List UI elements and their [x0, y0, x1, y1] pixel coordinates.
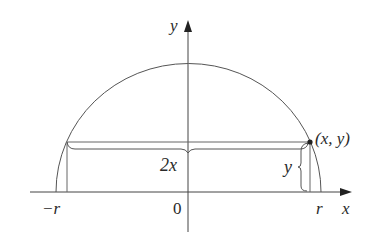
x-axis: [30, 188, 352, 196]
y-axis-label: y: [168, 16, 178, 35]
height-label: y: [282, 157, 292, 177]
point-dot: [307, 139, 312, 144]
y-axis-arrow-icon: [184, 20, 192, 32]
point-label: (x, y): [315, 129, 350, 148]
x-axis-arrow-icon: [340, 188, 352, 196]
pos-r-label: r: [316, 199, 323, 218]
x-axis-label: x: [341, 199, 350, 218]
width-label: 2x: [160, 155, 177, 175]
origin-label: 0: [173, 199, 182, 218]
semicircle-rectangle-diagram: y x 0 −r r (x, y) 2x y: [0, 0, 375, 242]
height-brace: [298, 143, 308, 191]
y-axis: [184, 20, 192, 232]
neg-r-label: −r: [42, 199, 60, 218]
